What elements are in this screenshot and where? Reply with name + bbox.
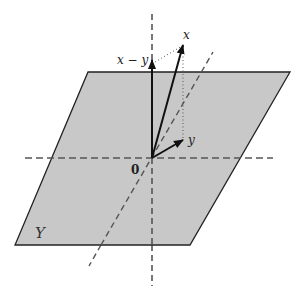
label-y: y (187, 133, 195, 147)
diagonal-axis-lower (89, 245, 101, 266)
label-x-minus-y: x − y (117, 53, 148, 67)
diagram-canvas: x x − y y 0 Y (0, 0, 300, 297)
label-x: x (183, 28, 190, 42)
label-origin: 0 (131, 163, 139, 177)
dotted-guide-xy-to-x (155, 46, 182, 62)
